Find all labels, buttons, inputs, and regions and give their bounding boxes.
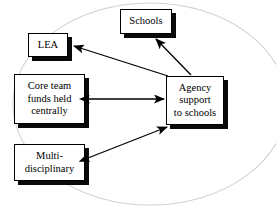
arrow-layer: [0, 0, 276, 208]
edge-agency-to-lea: [74, 46, 168, 76]
edge-multi-disciplinary-agency: [88, 127, 167, 158]
diagram-canvas: Schools LEA Core team funds held central…: [0, 0, 276, 208]
edge-agency-to-schools: [156, 39, 191, 75]
